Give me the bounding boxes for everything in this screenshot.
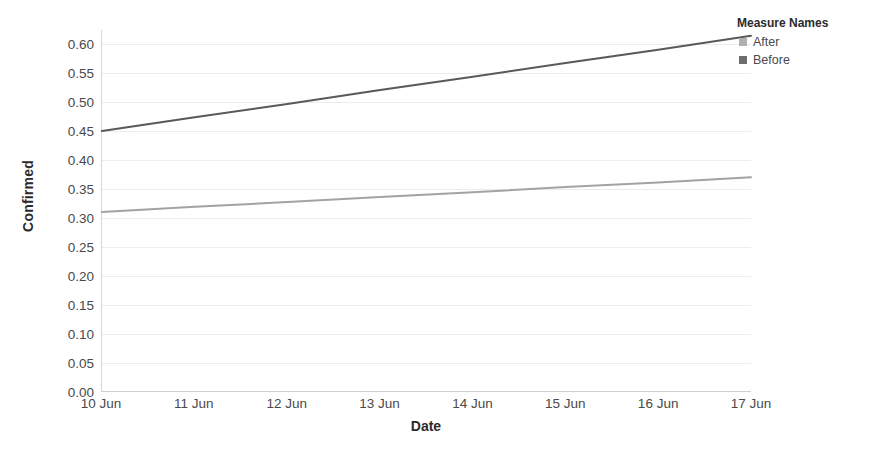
y-tick-label: 0.35 xyxy=(68,182,94,197)
x-axis-title: Date xyxy=(101,418,751,434)
legend-item-label: After xyxy=(753,35,779,49)
line-chart: Confirmed 0.600.550.500.450.400.350.300.… xyxy=(0,0,870,453)
y-axis-title: Confirmed xyxy=(14,0,42,392)
legend-item-after[interactable]: After xyxy=(737,34,862,50)
x-axis-ticks: 10 Jun11 Jun12 Jun13 Jun14 Jun15 Jun16 J… xyxy=(101,394,751,418)
x-tick-label: 11 Jun xyxy=(174,396,214,411)
legend-items: AfterBefore xyxy=(737,34,862,68)
y-tick-label: 0.05 xyxy=(68,356,94,371)
y-tick-label: 0.15 xyxy=(68,298,94,313)
legend-swatch-icon xyxy=(739,38,747,46)
y-tick-label: 0.30 xyxy=(68,211,94,226)
y-tick-label: 0.40 xyxy=(68,153,94,168)
y-axis-title-label: Confirmed xyxy=(20,160,36,232)
legend: Measure Names AfterBefore xyxy=(737,16,862,68)
y-tick-label: 0.45 xyxy=(68,124,94,139)
series-line-after xyxy=(102,177,751,212)
y-tick-label: 0.20 xyxy=(68,269,94,284)
x-tick-label: 16 Jun xyxy=(638,396,679,411)
y-tick-label: 0.25 xyxy=(68,240,94,255)
y-axis-ticks: 0.600.550.500.450.400.350.300.250.200.15… xyxy=(42,30,94,392)
y-tick-label: 0.50 xyxy=(68,95,94,110)
x-tick-label: 12 Jun xyxy=(266,396,307,411)
x-tick-label: 17 Jun xyxy=(731,396,772,411)
x-tick-label: 10 Jun xyxy=(81,396,122,411)
legend-title: Measure Names xyxy=(737,16,862,30)
series-line-before xyxy=(102,36,751,131)
y-tick-label: 0.10 xyxy=(68,327,94,342)
legend-swatch-icon xyxy=(739,56,747,64)
x-tick-label: 15 Jun xyxy=(545,396,586,411)
legend-item-before[interactable]: Before xyxy=(737,52,862,68)
plot-area xyxy=(101,30,751,392)
x-tick-label: 14 Jun xyxy=(452,396,493,411)
y-tick-label: 0.60 xyxy=(68,37,94,52)
y-tick-label: 0.55 xyxy=(68,66,94,81)
series-canvas xyxy=(102,30,751,391)
legend-item-label: Before xyxy=(753,53,790,67)
x-tick-label: 13 Jun xyxy=(359,396,400,411)
